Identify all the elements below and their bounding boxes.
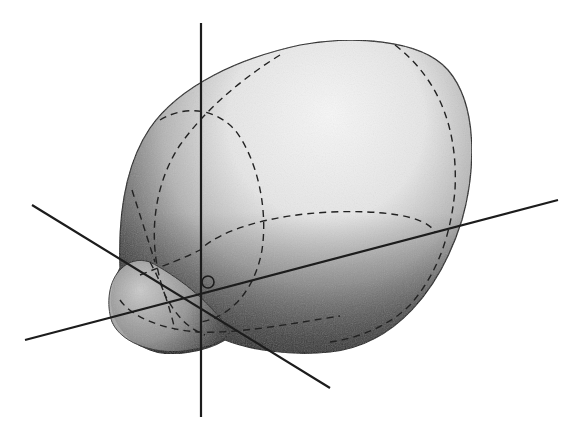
- diagram-canvas: [0, 0, 584, 444]
- surface-diagram: [0, 0, 584, 444]
- surface-body: [109, 40, 472, 353]
